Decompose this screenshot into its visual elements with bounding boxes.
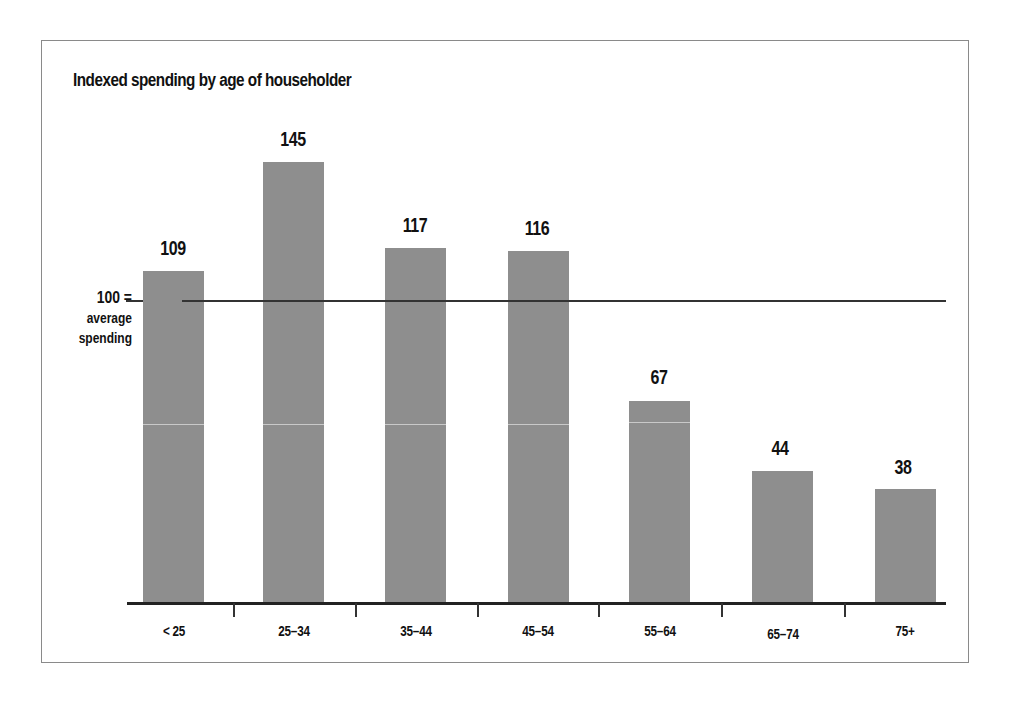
value-label: 116 xyxy=(505,217,569,240)
reference-line-label: 100 = average spending xyxy=(62,288,132,348)
value-label: 67 xyxy=(627,366,691,389)
bar-75-plus xyxy=(875,489,936,602)
bar-55-64 xyxy=(629,401,690,602)
x-axis-category: 55–64 xyxy=(621,622,699,639)
value-label: 117 xyxy=(383,214,447,237)
x-axis-tick xyxy=(721,603,723,617)
x-axis-tick xyxy=(598,603,600,617)
x-axis-category: < 25 xyxy=(135,622,213,639)
x-axis-category: 35–44 xyxy=(377,622,455,639)
value-label: 109 xyxy=(141,237,205,260)
chart-title: Indexed spending by age of householder xyxy=(73,70,351,91)
x-axis-category: 65–74 xyxy=(744,625,822,642)
bar-25-34 xyxy=(263,162,324,602)
x-axis-category: 25–34 xyxy=(255,622,333,639)
x-axis-category: 75+ xyxy=(866,622,944,639)
x-axis-tick xyxy=(477,603,479,617)
bar-under-25 xyxy=(143,271,204,602)
reference-label-value: 100 = xyxy=(75,288,132,308)
reference-label-line3: spending xyxy=(76,328,132,348)
reference-label-line2: average xyxy=(76,308,132,328)
x-axis-tick xyxy=(844,603,846,617)
x-axis-category: 45–54 xyxy=(499,622,577,639)
value-label: 38 xyxy=(871,456,935,479)
reference-line-100 xyxy=(182,300,946,302)
bar-45-54 xyxy=(508,251,569,602)
bar-65-74 xyxy=(752,471,813,602)
x-axis-line xyxy=(127,602,946,605)
value-label: 44 xyxy=(748,437,812,460)
value-label: 145 xyxy=(261,128,325,151)
reference-line-tick xyxy=(126,300,143,302)
x-axis-tick xyxy=(355,603,357,617)
x-axis-tick xyxy=(233,603,235,617)
